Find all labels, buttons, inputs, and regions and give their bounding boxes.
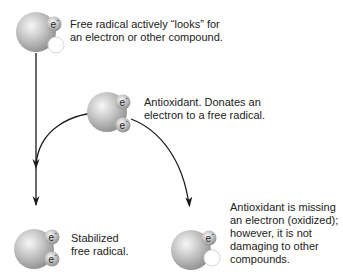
label-line: Stabilized [71, 232, 128, 245]
label-line: Free radical actively “looks” for [70, 18, 223, 31]
label-line: an electron (oxidized); [230, 214, 338, 227]
label-line: free radical. [71, 245, 128, 258]
label-line: compounds. [230, 253, 338, 266]
molecule-antioxidant: e - e - [87, 92, 131, 133]
molecule-stabilized-free-radical: e - e - [14, 229, 60, 269]
arrowhead-right-icon [185, 197, 192, 208]
label-stabilized-free-radical: Stabilized free radical. [71, 232, 128, 258]
label-line: Antioxidant. Donates an [144, 96, 265, 109]
label-line: Antioxidant is missing [230, 201, 338, 214]
label-line: electron to a free radical. [144, 109, 265, 122]
arrow-antioxidant-to-oxidized [131, 119, 189, 205]
label-line: however, it is not [230, 227, 338, 240]
label-antioxidant: Antioxidant. Donates an electron to a fr… [144, 96, 265, 122]
molecule-oxidized-antioxidant: e - [171, 230, 220, 270]
label-oxidized-antioxidant: Antioxidant is missing an electron (oxid… [230, 201, 338, 266]
label-line: an electron or other compound. [70, 31, 223, 44]
empty-orbital-icon [48, 37, 64, 53]
label-line: damaging to other [230, 240, 338, 253]
molecule-free-radical: e - [16, 12, 64, 53]
empty-orbital-icon [204, 250, 220, 266]
label-free-radical: Free radical actively “looks” for an ele… [70, 18, 223, 44]
